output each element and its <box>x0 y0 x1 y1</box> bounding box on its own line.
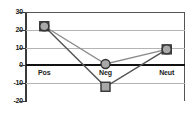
y-axis-tick-mark <box>19 30 25 31</box>
series-lines <box>26 12 185 101</box>
y-axis-tick-mark <box>19 83 25 84</box>
y-axis-tick-mark <box>19 101 25 102</box>
x-axis-category-label: Pos <box>38 69 51 77</box>
x-axis-category-label: Neg <box>99 69 112 77</box>
data-point-circle-marker <box>162 45 171 54</box>
plot-area <box>26 12 185 101</box>
data-point-circle-marker <box>40 22 49 31</box>
x-axis-category-label: Neut <box>159 69 174 77</box>
y-axis-labels: 3020100-10-20 <box>0 0 23 113</box>
data-point-square-marker <box>101 82 110 91</box>
chart-container: 3020100-10-20 PosNegNeut <box>0 0 191 113</box>
data-point-circle-marker <box>101 59 110 68</box>
y-axis-tick-mark <box>19 12 25 13</box>
y-axis-tick-mark <box>19 48 25 49</box>
y-axis-tick-mark <box>19 65 25 66</box>
series-line <box>44 26 166 87</box>
